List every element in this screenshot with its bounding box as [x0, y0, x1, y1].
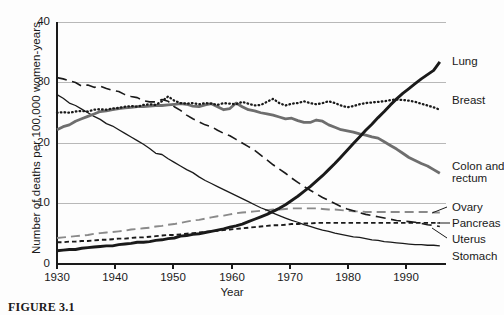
- y-axis-title: Number of deaths per 100,000 women-years: [30, 18, 42, 258]
- xtick-label-1980: 1980: [321, 271, 375, 283]
- series-label-uterus: Uterus: [452, 233, 486, 246]
- series-label-colon-2: rectum: [452, 172, 487, 185]
- leader-uterus: [432, 228, 447, 238]
- figure-caption: FIGURE 3.1: [8, 300, 75, 315]
- xtick-label-1960: 1960: [205, 271, 259, 283]
- series-label-lung: Lung: [452, 55, 478, 68]
- x-axis-title: Year: [0, 286, 464, 298]
- series-label-stomach: Stomach: [452, 250, 497, 263]
- xtick-label-1940: 1940: [88, 271, 142, 283]
- xtick-label-1950: 1950: [146, 271, 200, 283]
- series-line-uterus: [57, 78, 440, 227]
- series-label-breast: Breast: [452, 94, 485, 107]
- series-paths: [57, 62, 440, 251]
- chart-canvas: [0, 0, 504, 315]
- figure-root: 40 30 20 10 0 1930 1940 1950 1960 1970 1…: [0, 0, 504, 315]
- ytick-label-0: 0: [22, 257, 50, 269]
- series-label-pancreas: Pancreas: [452, 217, 501, 230]
- series-label-ovary: Ovary: [452, 201, 483, 214]
- xtick-label-1990: 1990: [379, 271, 433, 283]
- xtick-label-1930: 1930: [30, 271, 84, 283]
- gridlines: [57, 22, 446, 204]
- series-label-colon: Colon and: [452, 160, 504, 173]
- xtick-label-1970: 1970: [263, 271, 317, 283]
